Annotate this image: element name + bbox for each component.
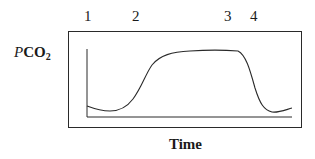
chart-frame (69, 32, 302, 128)
pco2-curve (87, 50, 292, 112)
x-axis-label: Time (0, 136, 315, 153)
